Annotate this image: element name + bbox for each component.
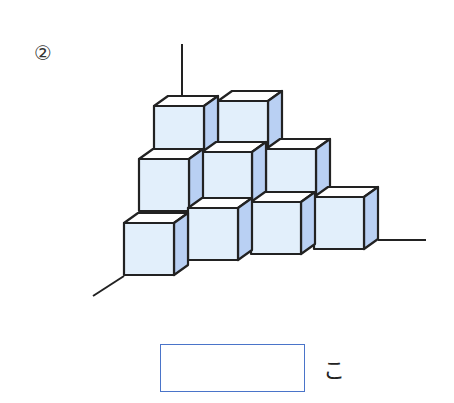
left-axis: [93, 276, 124, 296]
cube-front-face: [124, 223, 174, 275]
cube: [251, 192, 315, 254]
cube-front-face: [251, 202, 301, 254]
cubes: [124, 91, 378, 275]
cube: [202, 142, 266, 204]
cube-stack-figure: [0, 0, 454, 403]
cube: [188, 198, 252, 260]
cube: [124, 213, 188, 275]
cube-side-face: [301, 192, 315, 254]
cube: [139, 149, 203, 211]
cube-front-face: [139, 159, 189, 211]
cube-side-face: [174, 213, 188, 275]
cube-side-face: [238, 198, 252, 260]
answer-input-box[interactable]: [160, 344, 305, 392]
cube-front-face: [314, 197, 364, 249]
unit-label: こ: [323, 352, 345, 384]
cube-front-face: [188, 208, 238, 260]
cube: [314, 187, 378, 249]
problem-number: ②: [34, 41, 52, 65]
cube-side-face: [364, 187, 378, 249]
cube-front-face: [202, 152, 252, 204]
